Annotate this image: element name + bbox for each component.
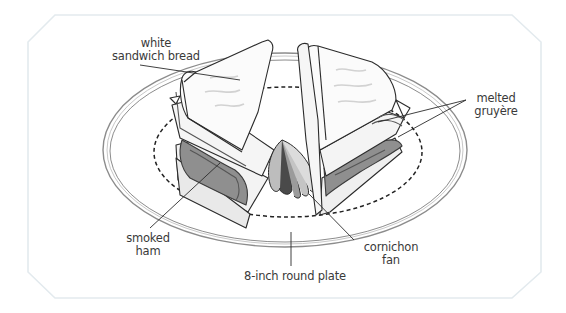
sandwich-illustration — [0, 0, 566, 313]
label-smoked-ham: smoked ham — [118, 232, 178, 258]
label-white-sandwich-bread: white sandwich bread — [96, 37, 216, 63]
label-cornichon-fan: cornichon fan — [355, 241, 427, 267]
label-melted-gruyere: melted gruyère — [466, 92, 526, 118]
label-8-inch-round-plate: 8-inch round plate — [240, 270, 350, 283]
illustration: white sandwich bread melted gruyère smok… — [0, 0, 566, 313]
